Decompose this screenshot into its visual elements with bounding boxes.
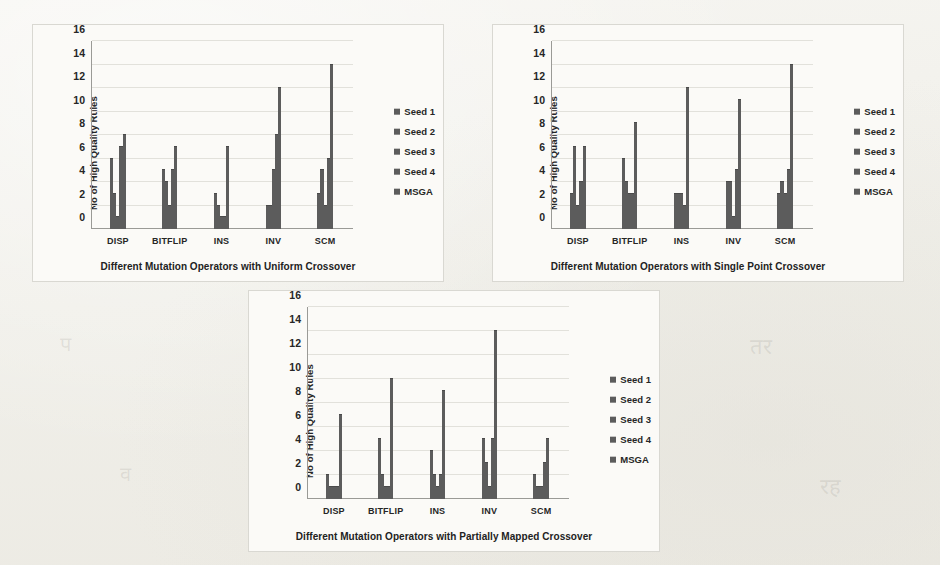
- y-axis-tick-label: 14: [73, 47, 85, 59]
- x-axis-title: Different Mutation Operators with Single…: [533, 261, 843, 272]
- bar-ins-msga[interactable]: [226, 146, 229, 229]
- bar-disp-msga[interactable]: [339, 414, 342, 499]
- legend-item-seed-4[interactable]: Seed 4: [610, 434, 651, 445]
- legend-item-seed-1[interactable]: Seed 1: [610, 374, 651, 385]
- bar-group-disp: DISP: [308, 307, 360, 499]
- legend-item-seed-3[interactable]: Seed 3: [394, 146, 435, 157]
- legend-item-seed-1[interactable]: Seed 1: [854, 106, 895, 117]
- plot-wrapper-singlepoint: No of High Quality Rules0246810121416DIS…: [493, 25, 903, 281]
- legend-item-label: Seed 3: [864, 146, 895, 157]
- legend-item-seed-4[interactable]: Seed 4: [854, 166, 895, 177]
- legend-swatch-icon: [854, 128, 860, 134]
- bar-scm-msga[interactable]: [790, 64, 793, 230]
- legend-item-msga[interactable]: MSGA: [610, 454, 651, 465]
- bar-group-ins: INS: [196, 41, 248, 229]
- y-axis-tick-label: 14: [533, 47, 545, 59]
- x-axis-category-label: INV: [463, 506, 515, 516]
- chart-panel-uniform-crossover: No of High Quality Rules0246810121416DIS…: [32, 24, 444, 282]
- y-axis-tick-label: 8: [295, 385, 301, 397]
- x-axis-category-label: INS: [412, 506, 464, 516]
- y-axis-tick-label: 10: [289, 361, 301, 373]
- bar-disp-msga[interactable]: [123, 134, 126, 229]
- legend-item-msga[interactable]: MSGA: [394, 186, 435, 197]
- x-axis-title: Different Mutation Operators with Unifor…: [73, 261, 383, 272]
- x-axis-category-label: INV: [247, 236, 299, 246]
- plot-area: 0246810121416DISPBITFLIPINSINVSCM: [307, 307, 567, 499]
- legend-swatch-icon: [854, 188, 860, 194]
- plot-area: 0246810121416DISPBITFLIPINSINVSCM: [551, 41, 811, 229]
- x-axis-category-label: SCM: [759, 236, 811, 246]
- y-axis-tick-label: 4: [295, 433, 301, 445]
- bar-bitflip-msga[interactable]: [390, 378, 393, 499]
- bar-groups: DISPBITFLIPINSINVSCM: [308, 307, 567, 499]
- plot-area: 0246810121416DISPBITFLIPINSINVSCM: [91, 41, 351, 229]
- plot-wrapper-pmx: No of High Quality Rules0246810121416DIS…: [249, 291, 659, 551]
- bar-group-inv: INV: [707, 41, 759, 229]
- legend-swatch-icon: [610, 436, 616, 442]
- x-axis-category-label: DISP: [552, 236, 604, 246]
- legend-item-seed-2[interactable]: Seed 2: [394, 126, 435, 137]
- legend-swatch-icon: [610, 376, 616, 382]
- bar-groups: DISPBITFLIPINSINVSCM: [552, 41, 811, 229]
- bar-group-scm: SCM: [515, 307, 567, 499]
- y-axis-tick-label: 4: [539, 164, 545, 176]
- x-axis-category-label: INS: [656, 236, 708, 246]
- x-axis-category-label: DISP: [308, 506, 360, 516]
- legend-swatch-icon: [394, 188, 400, 194]
- bar-group-scm: SCM: [759, 41, 811, 229]
- bar-bitflip-msga[interactable]: [634, 122, 637, 229]
- chart-panel-single-point-crossover: No of High Quality Rules0246810121416DIS…: [492, 24, 904, 282]
- legend-item-seed-2[interactable]: Seed 2: [854, 126, 895, 137]
- legend-item-seed-4[interactable]: Seed 4: [394, 166, 435, 177]
- bar-ins-msga[interactable]: [442, 390, 445, 499]
- bar-group-inv: INV: [463, 307, 515, 499]
- bar-group-bitflip: BITFLIP: [360, 307, 412, 499]
- y-axis-tick-label: 12: [289, 337, 301, 349]
- bar-scm-msga[interactable]: [330, 64, 333, 230]
- y-axis-tick-label: 8: [79, 117, 85, 129]
- bar-group-disp: DISP: [92, 41, 144, 229]
- y-axis-tick-label: 6: [539, 141, 545, 153]
- x-axis-category-label: BITFLIP: [144, 236, 196, 246]
- bar-group-inv: INV: [247, 41, 299, 229]
- y-axis-tick-label: 8: [539, 117, 545, 129]
- bar-inv-msga[interactable]: [738, 99, 741, 229]
- legend-item-label: Seed 2: [404, 126, 435, 137]
- bar-scm-msga[interactable]: [546, 438, 549, 499]
- y-axis-tick-label: 0: [539, 211, 545, 223]
- legend-swatch-icon: [610, 416, 616, 422]
- legend-item-label: MSGA: [620, 454, 649, 465]
- bar-group-disp: DISP: [552, 41, 604, 229]
- bar-groups: DISPBITFLIPINSINVSCM: [92, 41, 351, 229]
- legend-item-seed-3[interactable]: Seed 3: [854, 146, 895, 157]
- legend-item-seed-3[interactable]: Seed 3: [610, 414, 651, 425]
- bar-disp-msga[interactable]: [583, 146, 586, 229]
- x-axis-title: Different Mutation Operators with Partia…: [289, 531, 599, 542]
- bar-group-scm: SCM: [299, 41, 351, 229]
- legend-swatch-icon: [610, 396, 616, 402]
- legend-item-label: Seed 1: [620, 374, 651, 385]
- y-axis-tick-label: 16: [533, 23, 545, 35]
- y-axis-tick-label: 10: [73, 94, 85, 106]
- y-axis-tick-label: 12: [533, 70, 545, 82]
- y-axis-tick-label: 10: [533, 94, 545, 106]
- x-axis-category-label: INS: [196, 236, 248, 246]
- bleed-through-glyph: व: [120, 460, 131, 487]
- bar-group-bitflip: BITFLIP: [144, 41, 196, 229]
- legend-item-label: MSGA: [864, 186, 893, 197]
- y-axis-tick-label: 14: [289, 313, 301, 325]
- bar-group-ins: INS: [656, 41, 708, 229]
- bar-group-ins: INS: [412, 307, 464, 499]
- bar-ins-msga[interactable]: [686, 87, 689, 229]
- legend-item-label: Seed 3: [404, 146, 435, 157]
- legend-item-seed-1[interactable]: Seed 1: [394, 106, 435, 117]
- bar-inv-msga[interactable]: [494, 330, 497, 499]
- bar-inv-msga[interactable]: [278, 87, 281, 229]
- legend-swatch-icon: [854, 108, 860, 114]
- bleed-through-glyph: प: [60, 330, 71, 357]
- legend-item-msga[interactable]: MSGA: [854, 186, 895, 197]
- bar-bitflip-msga[interactable]: [174, 146, 177, 229]
- legend-item-seed-2[interactable]: Seed 2: [610, 394, 651, 405]
- plot-wrapper-uniform: No of High Quality Rules0246810121416DIS…: [33, 25, 443, 281]
- legend-item-label: Seed 4: [404, 166, 435, 177]
